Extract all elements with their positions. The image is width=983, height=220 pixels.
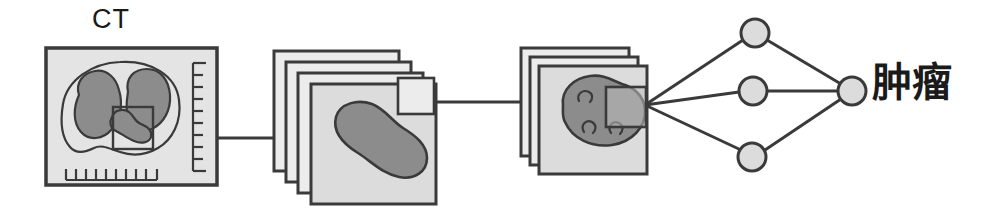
- slice-stack-panel[interactable]: [274, 51, 436, 204]
- hidden-node-2[interactable]: [739, 77, 767, 105]
- ct-scan-panel[interactable]: [46, 48, 217, 185]
- connector-node1-to-output: [767, 40, 841, 84]
- lesion-roi-box[interactable]: [606, 87, 646, 127]
- connector-lesions-to-node1: [645, 40, 743, 105]
- output-node[interactable]: [838, 77, 866, 105]
- connector-lines: [140, 40, 841, 150]
- neural-network[interactable]: [738, 19, 866, 171]
- connector-lesions-to-node3: [645, 105, 741, 150]
- hidden-node-1[interactable]: [741, 19, 769, 47]
- ct-modality-label: CT: [92, 6, 130, 33]
- pipeline-diagram-svg: [0, 0, 983, 220]
- output-class-label: 肿瘤: [872, 62, 952, 102]
- slice-roi-box[interactable]: [398, 78, 434, 114]
- lesion-stack-panel[interactable]: [521, 48, 647, 174]
- diagram-canvas: CT 肿瘤: [0, 0, 983, 220]
- hidden-node-3[interactable]: [738, 143, 766, 171]
- connector-node3-to-output: [765, 99, 841, 150]
